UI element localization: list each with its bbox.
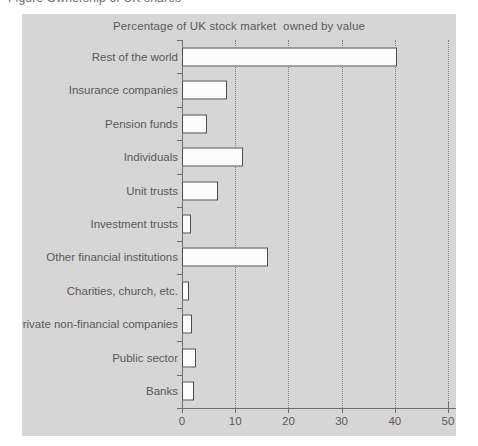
x-tick-label: 0 <box>162 415 202 427</box>
bar-row: Private non-financial companies <box>22 308 456 341</box>
category-tick <box>177 341 182 342</box>
bar <box>182 248 268 267</box>
axis-cap-start <box>182 402 183 409</box>
bar <box>182 315 192 334</box>
bar-row: Pension funds <box>22 107 456 140</box>
category-tick <box>177 73 182 74</box>
category-label: Individuals <box>124 151 178 163</box>
category-label: Pension funds <box>105 118 178 130</box>
bar-row: Other financial institutions <box>22 241 456 274</box>
tick-10 <box>235 408 236 413</box>
tick-30 <box>342 408 343 413</box>
axis-cap-end <box>448 402 449 409</box>
x-tick-label: 50 <box>428 415 456 427</box>
bar-row: Insurance companies <box>22 73 456 106</box>
x-tick-label: 10 <box>215 415 255 427</box>
category-tick <box>177 408 182 409</box>
bar-row: Charities, church, etc. <box>22 274 456 307</box>
category-tick <box>177 107 182 108</box>
bar <box>182 382 194 401</box>
category-label: Insurance companies <box>69 84 178 96</box>
category-label: Charities, church, etc. <box>67 285 178 297</box>
tick-20 <box>288 408 289 413</box>
bar-row: Investment trusts <box>22 207 456 240</box>
cropped-caption-text: Figure Ownership of UK shares <box>8 0 181 5</box>
category-tick <box>177 207 182 208</box>
bar <box>182 348 196 367</box>
category-tick <box>177 375 182 376</box>
category-tick <box>177 174 182 175</box>
x-axis-line <box>182 408 456 409</box>
x-tick-label: 20 <box>268 415 308 427</box>
category-label: Investment trusts <box>90 218 178 230</box>
bar <box>182 148 243 167</box>
bar-row: Banks <box>22 375 456 408</box>
bar <box>182 181 218 200</box>
category-label: Banks <box>146 385 178 397</box>
bar <box>182 81 227 100</box>
category-label: Private non-financial companies <box>22 318 178 330</box>
bar-row: Individuals <box>22 140 456 173</box>
cropped-caption-sliver: Figure Ownership of UK shares <box>0 0 478 12</box>
category-tick <box>177 241 182 242</box>
bar <box>182 47 397 66</box>
x-tick-label: 40 <box>375 415 415 427</box>
bar-row: Public sector <box>22 341 456 374</box>
bar <box>182 114 207 133</box>
plot-area: Rest of the worldInsurance companiesPens… <box>22 40 456 410</box>
category-tick <box>177 140 182 141</box>
chart-panel: Percentage of UK stock market owned by v… <box>22 14 456 436</box>
bar-row: Unit trusts <box>22 174 456 207</box>
bar-row: Rest of the world <box>22 40 456 73</box>
category-tick <box>177 274 182 275</box>
category-label: Public sector <box>112 352 178 364</box>
chart-title: Percentage of UK stock market owned by v… <box>22 20 456 32</box>
x-tick-label: 30 <box>322 415 362 427</box>
category-label: Other financial institutions <box>46 251 178 263</box>
category-tick <box>177 308 182 309</box>
bar <box>182 281 189 300</box>
category-label: Unit trusts <box>126 185 178 197</box>
tick-40 <box>395 408 396 413</box>
category-tick <box>177 40 182 41</box>
bar <box>182 214 191 233</box>
category-label: Rest of the world <box>92 51 178 63</box>
